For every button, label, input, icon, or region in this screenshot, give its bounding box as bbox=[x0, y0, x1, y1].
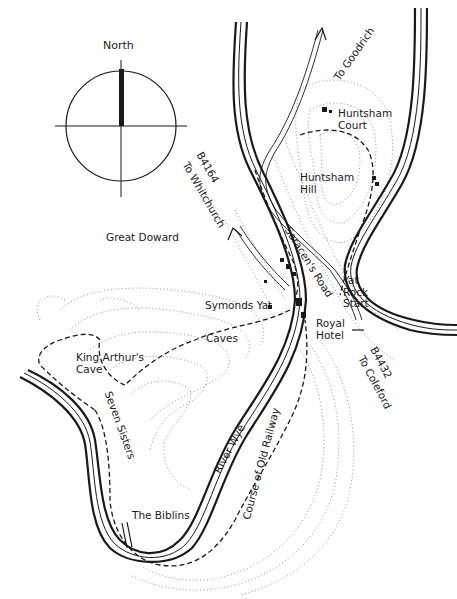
label-king-arthurs-cave: King Arthur's Cave bbox=[76, 352, 144, 375]
compass-rose bbox=[55, 60, 187, 197]
north-arrow-icon bbox=[119, 69, 124, 126]
label-huntsham-court: Huntsham Court bbox=[338, 108, 392, 131]
label-royal-hotel: Royal Hotel bbox=[316, 318, 345, 341]
river-wye bbox=[20, 8, 457, 562]
label-great-doward: Great Doward bbox=[106, 232, 179, 243]
label-huntsham-hill: Huntsham Hill bbox=[300, 172, 354, 195]
compass-north-label: North bbox=[103, 40, 134, 51]
label-the-biblins: The Biblins bbox=[132, 510, 190, 521]
label-caves: Caves bbox=[206, 333, 238, 344]
label-yat-rock-start: Yat Rock Start bbox=[343, 275, 369, 310]
label-symonds-yat: Symonds Yat bbox=[205, 300, 272, 311]
